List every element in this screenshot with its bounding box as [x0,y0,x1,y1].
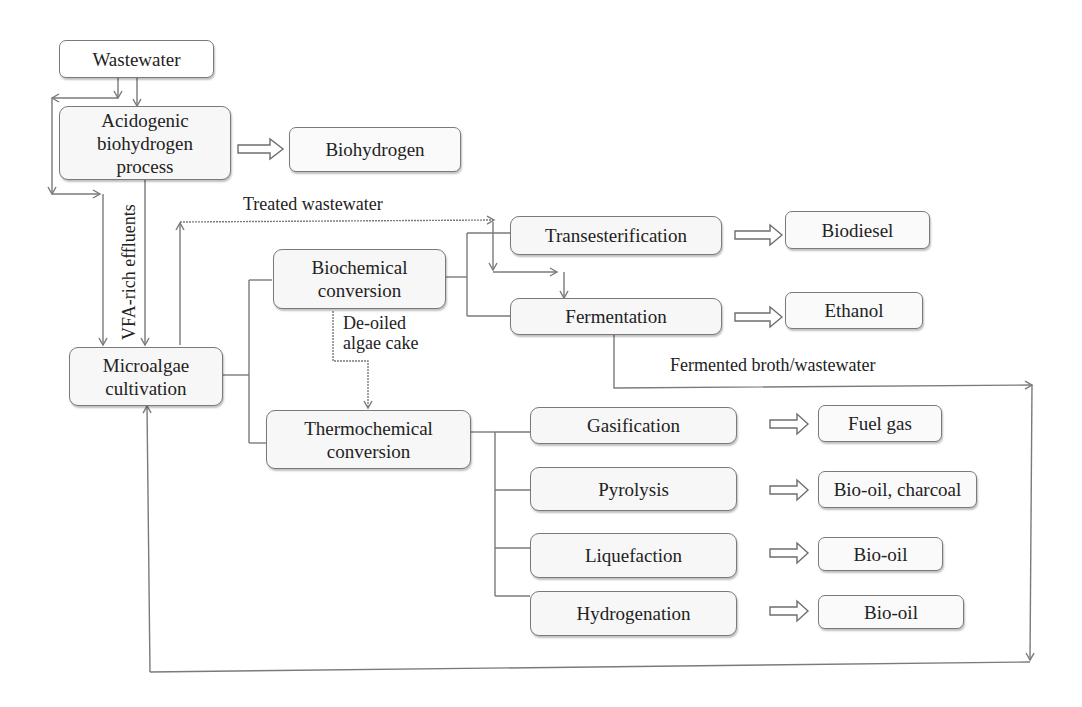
node-transesterification: Transesterification [510,216,722,255]
node-biodiesel-label: Biodiesel [822,219,894,242]
node-ethanol: Ethanol [785,292,923,329]
node-microalgae-cultivation: Microalgae cultivation [69,347,223,406]
node-biohydrogen-label: Biohydrogen [325,138,424,161]
node-biooil-charcoal-label: Bio-oil, charcoal [834,478,962,501]
node-liquefaction: Liquefaction [530,533,737,578]
node-acidogenic-biohydrogen-process: Acidogenic biohydrogen process [59,106,231,180]
edge-label-deoiled-line2: algae cake [343,333,418,353]
edge-label-deoiled-algae-cake: De-oiled algae cake [343,313,418,353]
node-pyrolysis: Pyrolysis [530,467,737,511]
node-thermochemical-line2: conversion [327,440,410,463]
node-biochemical-line1: Biochemical [311,256,407,279]
node-gasification: Gasification [530,407,737,444]
node-biooil-2-label: Bio-oil [864,601,918,624]
node-fuel-gas-label: Fuel gas [848,412,912,435]
node-thermochemical-conversion: Thermochemical conversion [266,410,471,469]
node-biooil-hydrogenation: Bio-oil [818,595,964,629]
node-biohydrogen: Biohydrogen [289,127,461,172]
node-biooil-1-label: Bio-oil [854,543,908,566]
node-microalgae-line1: Microalgae [103,354,190,377]
node-ethanol-label: Ethanol [824,299,883,322]
node-fermentation-label: Fermentation [565,305,666,328]
edge-label-treated-wastewater: Treated wastewater [243,194,383,215]
node-wastewater: Wastewater [59,40,214,78]
node-thermochemical-line1: Thermochemical [304,417,433,440]
node-gasification-label: Gasification [587,414,680,437]
edge-label-vfa-rich-effluents: VFA-rich effluents [119,204,140,340]
node-acidogenic-line1: Acidogenic [101,109,189,132]
node-biooil-charcoal: Bio-oil, charcoal [818,471,977,508]
node-microalgae-line2: cultivation [105,377,186,400]
node-hydrogenation-label: Hydrogenation [577,602,691,625]
node-acidogenic-line2: biohydrogen [97,132,193,155]
node-pyrolysis-label: Pyrolysis [598,478,669,501]
flow-diagram: Wastewater Acidogenic biohydrogen proces… [0,0,1082,707]
node-biodiesel: Biodiesel [785,211,930,249]
node-fuel-gas: Fuel gas [818,405,942,442]
node-liquefaction-label: Liquefaction [585,544,682,567]
edge-label-fermented-broth: Fermented broth/wastewater [670,355,875,376]
node-fermentation: Fermentation [510,298,722,335]
node-wastewater-label: Wastewater [92,48,180,71]
node-biochemical-conversion: Biochemical conversion [273,249,446,309]
node-biochemical-line2: conversion [318,279,401,302]
node-biooil-liquefaction: Bio-oil [818,537,943,571]
node-acidogenic-line3: process [117,155,174,178]
edge-label-deoiled-line1: De-oiled [343,313,418,333]
node-hydrogenation: Hydrogenation [530,591,737,636]
node-transesterification-label: Transesterification [545,224,687,247]
